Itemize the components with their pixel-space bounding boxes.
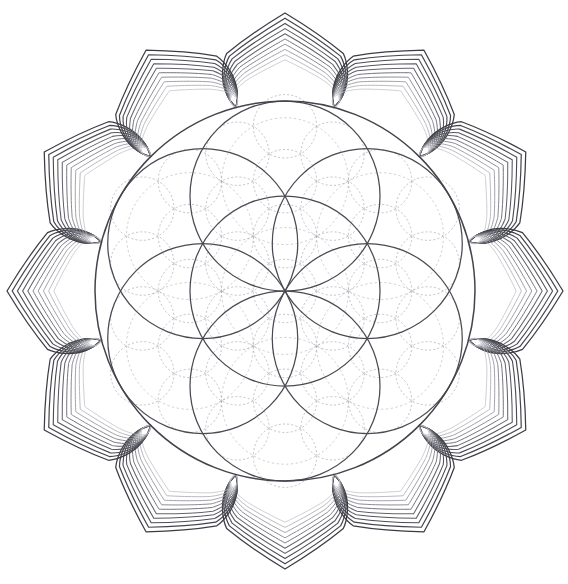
- mandala-illustration: [0, 0, 568, 584]
- artwork-canvas: [0, 0, 568, 584]
